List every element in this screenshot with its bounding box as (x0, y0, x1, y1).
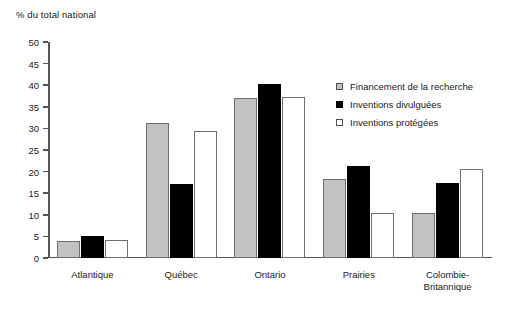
bar (282, 97, 305, 258)
y-axis-tick-label: 5 (34, 231, 39, 242)
legend-swatch-icon (336, 83, 343, 90)
legend-item: Inventions protégées (336, 113, 473, 131)
y-axis-tick-label: 15 (28, 188, 39, 199)
legend-item: Financement de la recherche (336, 77, 473, 95)
bar (347, 166, 370, 258)
bar-group: Prairies (314, 42, 403, 258)
bar (105, 240, 128, 258)
x-axis-category-label: Atlantique (71, 269, 113, 281)
bar (460, 169, 483, 258)
legend-swatch-icon (336, 101, 343, 108)
bar (57, 241, 80, 258)
bar (194, 131, 217, 258)
y-axis-tick-label: 45 (28, 58, 39, 69)
legend-item: Inventions divulguées (336, 95, 473, 113)
bar-group: Ontario (226, 42, 315, 258)
y-axis-tick-label: 0 (34, 253, 39, 264)
bar (323, 179, 346, 258)
bar (412, 213, 435, 258)
legend-item-label: Inventions protégées (350, 117, 438, 128)
bar (146, 123, 169, 258)
bar (170, 184, 193, 258)
bar (436, 183, 459, 258)
y-axis-tick-label: 40 (28, 80, 39, 91)
legend-swatch-icon (336, 119, 343, 126)
x-axis-category-label: Prairies (343, 269, 375, 281)
bar (258, 84, 281, 258)
legend-item-label: Inventions divulguées (350, 99, 441, 110)
chart-legend: Financement de la rechercheInventions di… (336, 77, 473, 131)
y-axis-title: % du total national (16, 9, 96, 20)
bar-chart: % du total national 05101520253035404550… (0, 0, 506, 312)
x-axis-category-label: Colombie-Britannique (424, 269, 472, 292)
bar-group: Atlantique (48, 42, 137, 258)
x-axis-category-label: Québec (165, 269, 198, 281)
bar (371, 213, 394, 258)
bar-group: Colombie-Britannique (403, 42, 492, 258)
x-axis-category-label: Ontario (254, 269, 285, 281)
y-axis-tick-label: 20 (28, 166, 39, 177)
y-axis-tick-label: 30 (28, 123, 39, 134)
plot-area: 05101520253035404550 AtlantiqueQuébecOnt… (48, 42, 492, 258)
bar (234, 98, 257, 258)
y-axis-tick-label: 35 (28, 101, 39, 112)
y-axis-tick-label: 25 (28, 145, 39, 156)
y-axis-tick-label: 10 (28, 209, 39, 220)
bar-group: Québec (137, 42, 226, 258)
bar (81, 236, 104, 258)
legend-item-label: Financement de la recherche (350, 81, 473, 92)
y-axis-tick-label: 50 (28, 37, 39, 48)
